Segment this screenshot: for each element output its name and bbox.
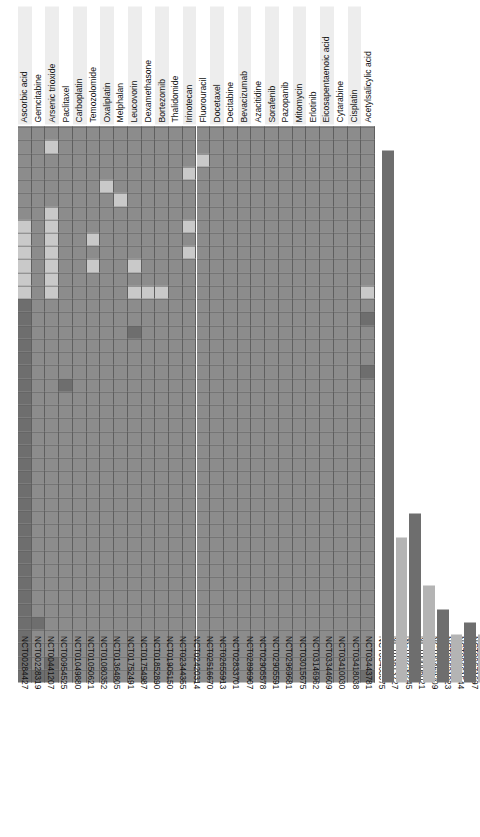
heatmap-cell[interactable] — [306, 325, 320, 338]
heatmap-cell[interactable] — [128, 298, 142, 311]
heatmap-cell[interactable] — [197, 179, 211, 192]
heatmap-cell[interactable] — [73, 325, 87, 338]
heatmap-cell[interactable] — [155, 153, 169, 166]
heatmap-cell[interactable] — [114, 232, 128, 245]
heatmap-cell[interactable] — [306, 603, 320, 616]
heatmap-cell[interactable] — [279, 259, 293, 272]
heatmap-cell[interactable] — [100, 219, 114, 232]
heatmap-cell[interactable] — [18, 470, 32, 483]
heatmap-cell[interactable] — [238, 351, 252, 364]
heatmap-cell[interactable] — [142, 153, 156, 166]
heatmap-cell[interactable] — [45, 470, 59, 483]
heatmap-cell[interactable] — [251, 589, 265, 602]
heatmap-cell[interactable] — [128, 523, 142, 536]
heatmap-cell[interactable] — [251, 536, 265, 549]
heatmap-cell[interactable] — [73, 338, 87, 351]
heatmap-cell[interactable] — [142, 550, 156, 563]
heatmap-cell[interactable] — [348, 523, 362, 536]
heatmap-cell[interactable] — [45, 603, 59, 616]
heatmap-cell[interactable] — [348, 457, 362, 470]
heatmap-cell[interactable] — [334, 497, 348, 510]
heatmap-cell[interactable] — [100, 166, 114, 179]
heatmap-cell[interactable] — [128, 192, 142, 205]
heatmap-cell[interactable] — [238, 285, 252, 298]
heatmap-cell[interactable] — [361, 245, 375, 258]
heatmap-cell[interactable] — [251, 497, 265, 510]
heatmap-cell[interactable] — [100, 576, 114, 589]
heatmap-cell[interactable] — [73, 536, 87, 549]
heatmap-cell[interactable] — [59, 325, 73, 338]
heatmap-cell[interactable] — [100, 536, 114, 549]
heatmap-cell[interactable] — [348, 179, 362, 192]
heatmap-cell[interactable] — [348, 576, 362, 589]
heatmap-cell[interactable] — [45, 444, 59, 457]
heatmap-cell[interactable] — [251, 576, 265, 589]
heatmap-cell[interactable] — [87, 139, 101, 152]
heatmap-cell[interactable] — [18, 325, 32, 338]
heatmap-cell[interactable] — [32, 378, 46, 391]
heatmap-cell[interactable] — [128, 245, 142, 258]
heatmap-cell[interactable] — [18, 497, 32, 510]
heatmap-cell[interactable] — [279, 616, 293, 629]
heatmap-cell[interactable] — [197, 351, 211, 364]
heatmap-cell[interactable] — [334, 563, 348, 576]
heatmap-cell[interactable] — [32, 166, 46, 179]
heatmap-cell[interactable] — [59, 603, 73, 616]
heatmap-cell[interactable] — [251, 483, 265, 496]
heatmap-cell[interactable] — [238, 563, 252, 576]
heatmap-cell[interactable] — [210, 259, 224, 272]
heatmap-cell[interactable] — [59, 232, 73, 245]
heatmap-cell[interactable] — [100, 338, 114, 351]
heatmap-cell[interactable] — [293, 404, 307, 417]
heatmap-cell[interactable] — [87, 603, 101, 616]
heatmap-cell[interactable] — [18, 351, 32, 364]
heatmap-cell[interactable] — [142, 139, 156, 152]
heatmap-cell[interactable] — [210, 311, 224, 324]
heatmap-cell[interactable] — [265, 351, 279, 364]
heatmap-cell[interactable] — [87, 444, 101, 457]
heatmap-cell[interactable] — [114, 378, 128, 391]
heatmap-cell[interactable] — [114, 576, 128, 589]
heatmap-cell[interactable] — [183, 232, 197, 245]
heatmap-cell[interactable] — [87, 378, 101, 391]
heatmap-cell[interactable] — [59, 497, 73, 510]
heatmap-cell[interactable] — [224, 431, 238, 444]
heatmap-cell[interactable] — [142, 311, 156, 324]
heatmap-cell[interactable] — [114, 298, 128, 311]
heatmap-cell[interactable] — [169, 616, 183, 629]
heatmap-cell[interactable] — [361, 285, 375, 298]
heatmap-cell[interactable] — [348, 404, 362, 417]
heatmap-cell[interactable] — [197, 166, 211, 179]
heatmap-cell[interactable] — [169, 325, 183, 338]
heatmap-cell[interactable] — [59, 364, 73, 377]
heatmap-cell[interactable] — [320, 245, 334, 258]
heatmap-cell[interactable] — [361, 457, 375, 470]
heatmap-cell[interactable] — [169, 192, 183, 205]
heatmap-cell[interactable] — [73, 483, 87, 496]
heatmap-cell[interactable] — [320, 457, 334, 470]
heatmap-cell[interactable] — [210, 563, 224, 576]
heatmap-cell[interactable] — [45, 219, 59, 232]
heatmap-cell[interactable] — [73, 417, 87, 430]
heatmap-cell[interactable] — [224, 364, 238, 377]
heatmap-cell[interactable] — [265, 444, 279, 457]
heatmap-cell[interactable] — [334, 272, 348, 285]
heatmap-cell[interactable] — [142, 325, 156, 338]
heatmap-cell[interactable] — [128, 563, 142, 576]
heatmap-cell[interactable] — [59, 563, 73, 576]
heatmap-cell[interactable] — [142, 510, 156, 523]
heatmap-cell[interactable] — [87, 219, 101, 232]
heatmap-cell[interactable] — [279, 550, 293, 563]
heatmap-cell[interactable] — [251, 259, 265, 272]
heatmap-cell[interactable] — [114, 153, 128, 166]
heatmap-cell[interactable] — [169, 536, 183, 549]
heatmap-cell[interactable] — [73, 139, 87, 152]
heatmap-cell[interactable] — [197, 563, 211, 576]
heatmap-cell[interactable] — [265, 206, 279, 219]
heatmap-cell[interactable] — [293, 417, 307, 430]
heatmap-cell[interactable] — [210, 589, 224, 602]
heatmap-cell[interactable] — [142, 483, 156, 496]
heatmap-cell[interactable] — [293, 391, 307, 404]
heatmap-cell[interactable] — [183, 483, 197, 496]
heatmap-cell[interactable] — [348, 325, 362, 338]
